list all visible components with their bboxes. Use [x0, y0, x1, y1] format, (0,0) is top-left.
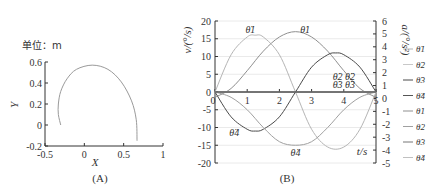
chart-b-annotation: θ̈1: [245, 24, 255, 35]
chart-b-y-tick-label-left: -20: [198, 158, 211, 169]
chart-b-y-tick-label-left: 20: [201, 16, 211, 27]
chart-b-annotation: θ̇4: [291, 147, 301, 158]
chart-b-ylabel-left: v/(°/s): [181, 26, 194, 53]
chart-b-x-tick-label: 4: [341, 95, 346, 106]
chart-b-caption: (B): [280, 172, 295, 185]
chart-b-y-tick-label-right: 5: [382, 28, 387, 39]
chart-b-legend-label: θ̈1: [416, 44, 425, 54]
chart-b-y-tick-label-left: 10: [201, 51, 211, 62]
chart-b-y-tick-label-right: -3: [382, 132, 390, 143]
chart-b-x-tick-label: 3: [309, 95, 314, 106]
chart-b-legend-label: θ̈4: [416, 91, 425, 101]
chart-b-ylabel-right: a/(°/s²): [399, 25, 412, 56]
chart-b-legend: θ̈1θ̈2θ̈3θ̈4θ̇1θ̇2θ̇3θ̇4: [403, 44, 425, 163]
chart-b-y-tick-label-right: 6: [382, 16, 387, 27]
chart-b-x-tick-label: 2: [277, 95, 282, 106]
chart-b-legend-label: θ̈2: [416, 60, 425, 70]
chart-b-y-tick-label-right: 2: [382, 67, 387, 78]
chart-b-annotation: θ̇3 θ̈3: [333, 79, 355, 90]
chart-b-y-tick-label-right: -5: [382, 158, 390, 169]
chart-b-y-tick-label-right: 1: [382, 80, 387, 91]
chart-b-x-tick-label: 0: [211, 95, 216, 106]
chart-b-legend-label: θ̇3: [416, 137, 425, 147]
chart-b-y-tick-label-right: 4: [382, 41, 387, 52]
chart-b-annotation: θ̇1: [300, 24, 310, 35]
chart-b-legend-label: θ̇2: [416, 122, 425, 132]
chart-b-y-tick-label-left: -15: [198, 140, 211, 151]
chart-b: -20-15-10-505101520-5-4-3-2-101234560123…: [0, 0, 436, 193]
chart-b-y-tick-label-right: -4: [382, 145, 390, 156]
chart-b-legend-label: θ̇4: [416, 153, 425, 163]
chart-b-y-tick-label-right: 0: [382, 93, 387, 104]
chart-b-annotation: θ̈4: [229, 127, 239, 138]
chart-b-y-tick-label-left: 15: [201, 33, 211, 44]
chart-b-legend-label: θ̇1: [416, 106, 425, 116]
chart-b-xlabel: t/s: [357, 145, 367, 157]
chart-b-y-tick-label-left: 5: [206, 69, 211, 80]
chart-b-annotations: θ̈1θ̇1θ̇2 θ̈2θ̇3 θ̈3θ̈4θ̇4: [229, 24, 355, 157]
chart-b-y-tick-label-right: -1: [382, 106, 390, 117]
chart-b-y-tick-label-left: -10: [198, 122, 211, 133]
chart-b-y-tick-label-right: -2: [382, 119, 390, 130]
chart-b-legend-label: θ̈3: [416, 75, 425, 85]
chart-b-x-tick-label: 1: [245, 95, 250, 106]
chart-b-y-tick-label-right: 3: [382, 54, 387, 65]
